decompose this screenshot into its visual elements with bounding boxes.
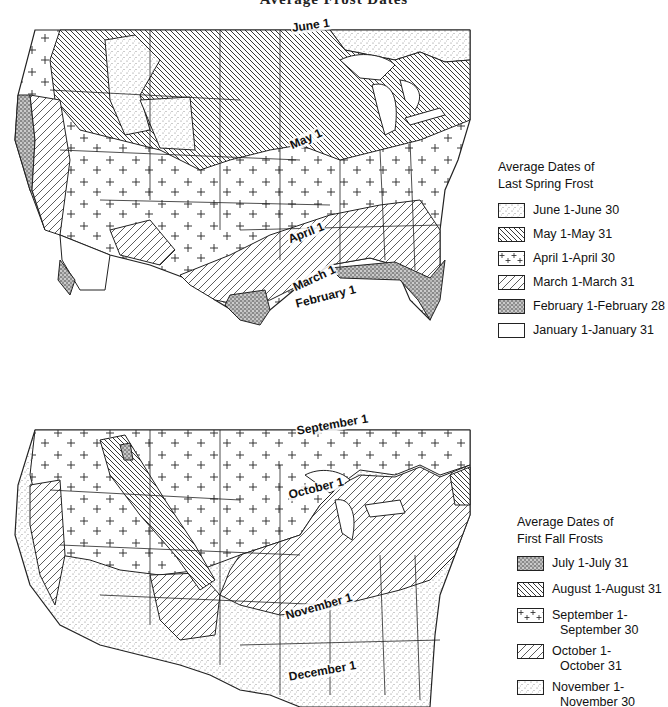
- legend-title: Average Dates of Last Spring Frost: [498, 159, 665, 193]
- cross-pattern-swatch: [498, 251, 525, 266]
- legend-label-line2: September 30: [552, 623, 639, 638]
- us-map-fall: [0, 405, 480, 707]
- fall-frost-legend: Average Dates of First Fall Frosts July …: [517, 514, 662, 707]
- legend-item-july: July 1-July 31: [517, 556, 662, 571]
- heavy-stipple-swatch: [517, 556, 544, 571]
- legend-label: February 1-February 28: [533, 299, 665, 314]
- us-map-spring: [0, 0, 480, 340]
- legend-label-line1: November 1-: [552, 680, 635, 695]
- legend-item-august: August 1-August 31: [517, 582, 662, 597]
- fine-stipple-swatch: [517, 680, 544, 695]
- legend-item-may: May 1-May 31: [498, 227, 665, 242]
- legend-label: May 1-May 31: [533, 227, 612, 242]
- legend-item-september: September 1- September 30: [517, 608, 662, 638]
- legend-label-line2: November 30: [552, 695, 635, 707]
- legend-label: August 1-August 31: [552, 582, 662, 597]
- heavy-stipple-swatch: [498, 299, 525, 314]
- legend-item-february: February 1-February 28: [498, 299, 665, 314]
- forward-hatch-swatch: [498, 275, 525, 290]
- legend-label-line2: October 31: [552, 659, 622, 674]
- cross-pattern-swatch: [517, 608, 544, 623]
- legend-label: January 1-January 31: [533, 323, 654, 338]
- backslash-hatch-swatch: [498, 227, 525, 242]
- legend-item-april: April 1-April 30: [498, 251, 665, 266]
- backslash-hatch-swatch: [517, 582, 544, 597]
- legend-label: September 1- September 30: [552, 608, 639, 638]
- legend-title-line2: First Fall Frosts: [517, 531, 662, 548]
- legend-title-line2: Last Spring Frost: [498, 176, 665, 193]
- legend-item-november: November 1- November 30: [517, 680, 662, 707]
- legend-label: June 1-June 30: [533, 203, 619, 218]
- legend-title-line1: Average Dates of: [517, 514, 662, 531]
- legend-label-line1: September 1-: [552, 608, 639, 623]
- legend-label-line1: October 1-: [552, 644, 622, 659]
- fine-stipple-swatch: [498, 203, 525, 218]
- legend-label: April 1-April 30: [533, 251, 615, 266]
- legend-item-october: October 1- October 31: [517, 644, 662, 674]
- legend-label-line1: August 1-August 31: [552, 582, 662, 596]
- legend-label-line1: July 1-July 31: [552, 556, 628, 570]
- legend-title-line1: Average Dates of: [498, 159, 665, 176]
- spring-frost-legend: Average Dates of Last Spring Frost June …: [498, 159, 665, 347]
- legend-title: Average Dates of First Fall Frosts: [517, 514, 662, 548]
- legend-label: March 1-March 31: [533, 275, 634, 290]
- legend-label: November 1- November 30: [552, 680, 635, 707]
- legend-item-january: January 1-January 31: [498, 323, 665, 338]
- blank-swatch: [498, 323, 525, 338]
- forward-hatch-swatch: [517, 644, 544, 659]
- legend-label: July 1-July 31: [552, 556, 628, 571]
- fall-frost-map: September 1 October 1 November 1 Decembe…: [0, 405, 480, 707]
- legend-label: October 1- October 31: [552, 644, 622, 674]
- legend-item-march: March 1-March 31: [498, 275, 665, 290]
- spring-frost-map: June 1 May 1 April 1 March 1 February 1: [0, 0, 480, 340]
- legend-item-june: June 1-June 30: [498, 203, 665, 218]
